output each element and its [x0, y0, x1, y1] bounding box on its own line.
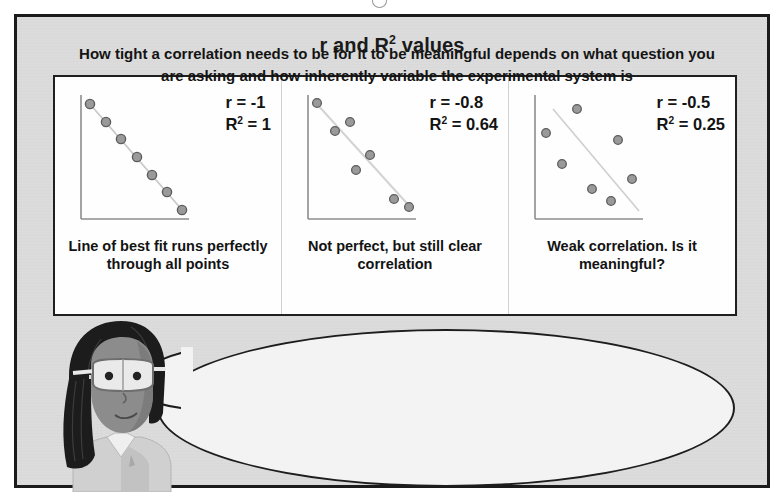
r2-suffix-strong: = 0.64	[447, 115, 498, 133]
r2-suffix-perfect: = 1	[243, 115, 271, 133]
speech-bubble	[157, 329, 735, 487]
r-value-strong: r = -0.8	[429, 91, 498, 113]
caption-strong: Not perfect, but still clear correlation	[286, 237, 504, 273]
caption-weak: Weak correlation. Is it meaningful?	[513, 237, 731, 273]
scatter-panel: r = -1 R2 = 1 Line of best fit runs perf…	[53, 75, 737, 316]
caption-perfect: Line of best fit runs perfectly through …	[59, 237, 277, 273]
stat-block-perfect: r = -1 R2 = 1	[225, 91, 271, 135]
r2-suffix-weak: = 0.25	[674, 115, 725, 133]
chart-cell-weak-correlation: r = -0.5 R2 = 0.25 Weak correlation. Is …	[508, 77, 735, 314]
slide-screenshot: r and R2 values	[0, 0, 784, 503]
r2-prefix-strong: R	[429, 115, 441, 133]
r2-prefix-weak: R	[656, 115, 668, 133]
r2-prefix-perfect: R	[225, 115, 237, 133]
r-value-perfect: r = -1	[225, 91, 271, 113]
stat-block-strong: r = -0.8 R2 = 0.64	[429, 91, 498, 135]
scientist-avatar	[45, 317, 195, 492]
r2-value-perfect: R2 = 1	[225, 113, 271, 135]
stat-block-weak: r = -0.5 R2 = 0.25	[656, 91, 725, 135]
slide-frame: r and R2 values	[14, 14, 770, 488]
speech-bubble-text: How tight a correlation needs to be for …	[75, 43, 719, 87]
page-top-artifact	[372, 0, 387, 8]
r2-value-strong: R2 = 0.64	[429, 113, 498, 135]
r2-value-weak: R2 = 0.25	[656, 113, 725, 135]
chart-cell-strong-correlation: r = -0.8 R2 = 0.64 Not perfect, but stil…	[281, 77, 508, 314]
chart-cell-perfect-correlation: r = -1 R2 = 1 Line of best fit runs perf…	[55, 77, 281, 314]
r-value-weak: r = -0.5	[656, 91, 725, 113]
